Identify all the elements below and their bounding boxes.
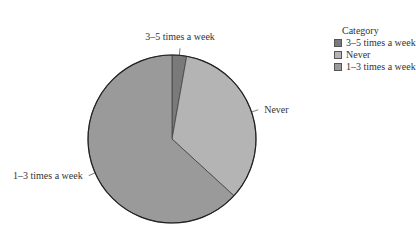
- legend-swatch: [334, 51, 342, 59]
- leader-line: [179, 48, 180, 55]
- legend-label: Never: [346, 49, 370, 61]
- legend-item: 3–5 times a week: [334, 37, 416, 49]
- legend-label: 1–3 times a week: [346, 61, 416, 73]
- legend: Category 3–5 times a week Never 1–3 time…: [334, 25, 416, 73]
- legend-title: Category: [342, 25, 416, 37]
- slice-label: 3–5 times a week: [145, 31, 215, 42]
- legend-label: 3–5 times a week: [346, 37, 416, 49]
- legend-swatch: [334, 63, 342, 71]
- legend-item: Never: [334, 49, 416, 61]
- legend-swatch: [334, 39, 342, 47]
- slice-label: 1–3 times a week: [13, 170, 83, 181]
- legend-item: 1–3 times a week: [334, 61, 416, 73]
- leader-line: [252, 110, 259, 112]
- leader-line: [89, 173, 95, 176]
- slice-label: Never: [264, 104, 289, 115]
